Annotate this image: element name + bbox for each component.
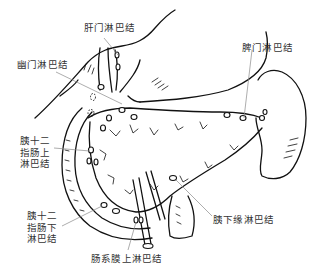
label-inferior-pancreatic-nodes: 胰下缘淋巴结 <box>213 214 274 226</box>
label-splenic-hilum-nodes: 脾门淋巴结 <box>242 42 293 54</box>
label-infraduodenal-nodes: 胰十二 指肠下 淋巴结 <box>27 210 58 245</box>
label-superior-mesenteric-nodes: 肠系膜上淋巴结 <box>91 253 162 265</box>
label-pyloric-nodes: 幽门淋巴结 <box>17 59 68 71</box>
jejunum-outline <box>169 196 194 238</box>
lymph-nodes <box>87 52 267 223</box>
spleen-outline <box>256 70 306 178</box>
pancreas-outline <box>88 108 262 212</box>
label-hepatic-hilum-nodes: 肝门淋巴结 <box>84 22 135 34</box>
label-supraduodenal-nodes: 胰十二 指肠上 淋巴结 <box>20 135 51 170</box>
